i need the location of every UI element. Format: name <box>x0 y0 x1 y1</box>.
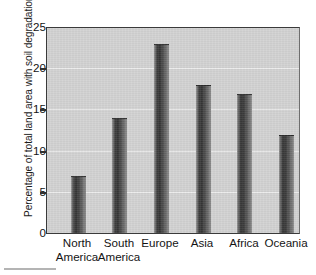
bar-south-america <box>112 118 127 233</box>
bar-africa <box>237 94 252 233</box>
bar-asia <box>196 85 211 233</box>
gridline-15 <box>47 109 299 110</box>
x-axis-label-group: North America South America Europe Asia … <box>46 236 300 274</box>
bar-chart-figure: Percentage of total land area with soil … <box>0 0 316 275</box>
bar-oceania <box>279 135 294 233</box>
bar-north-america <box>71 176 86 233</box>
scan-artifact-line <box>4 268 56 270</box>
y-tick-label-25: 25 <box>20 21 46 33</box>
gridline-10 <box>47 151 299 152</box>
bar-europe <box>154 44 169 233</box>
x-label-line1: Oceania <box>264 236 307 249</box>
y-tick-label-0: 0 <box>20 227 46 239</box>
x-label-line2: America <box>86 250 152 264</box>
gridline-20 <box>47 68 299 69</box>
x-label-oceania: Oceania <box>253 236 316 250</box>
plot-area <box>46 27 300 234</box>
x-label-line1: Asia <box>191 236 214 249</box>
